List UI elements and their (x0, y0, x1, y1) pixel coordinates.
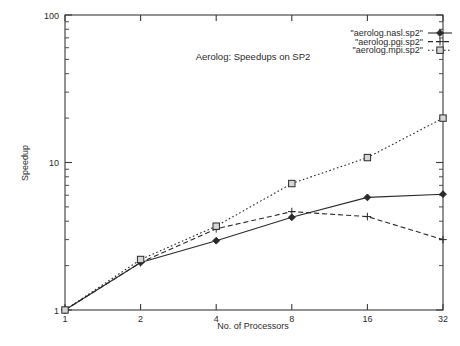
series-line (65, 118, 443, 310)
data-point-marker (289, 180, 295, 186)
y-tick-label: 100 (44, 11, 59, 21)
series-0 (62, 191, 447, 314)
series-line (65, 212, 443, 310)
x-tick-label: 32 (438, 314, 448, 324)
y-axis-label: Speedup (20, 145, 30, 181)
data-point-marker (364, 154, 370, 160)
x-tick-label: 1 (62, 314, 67, 324)
data-series-layer (61, 115, 447, 314)
data-point-marker (440, 115, 446, 121)
series-line (65, 194, 443, 310)
x-tick-label: 2 (138, 314, 143, 324)
data-point-marker (437, 47, 443, 53)
data-point-marker (213, 237, 220, 244)
chart-page: 110100 12481632 "aerolog.nasl.sp2""aerol… (0, 0, 460, 346)
data-point-marker (364, 194, 371, 201)
x-tick-label: 16 (362, 314, 372, 324)
data-point-marker (62, 307, 68, 313)
x-tick-label: 8 (289, 314, 294, 324)
series-2 (62, 115, 446, 313)
legend-label-2: "aerolog.mpi.sp2" (353, 45, 423, 55)
data-point-marker (440, 191, 447, 198)
chart-legend: "aerolog.nasl.sp2""aerolog.pgi.sp2""aero… (351, 28, 452, 55)
chart-title: Aerolog: Speedups on SP2 (196, 51, 311, 62)
data-point-marker (137, 256, 143, 262)
speedup-chart: 110100 12481632 "aerolog.nasl.sp2""aerol… (0, 0, 460, 346)
y-tick-label: 1 (54, 306, 59, 316)
series-1 (61, 208, 447, 314)
data-point-marker (213, 223, 219, 229)
y-tick-label: 10 (49, 158, 59, 168)
data-point-marker (437, 30, 444, 37)
x-axis-label: No. of Processors (217, 321, 289, 331)
